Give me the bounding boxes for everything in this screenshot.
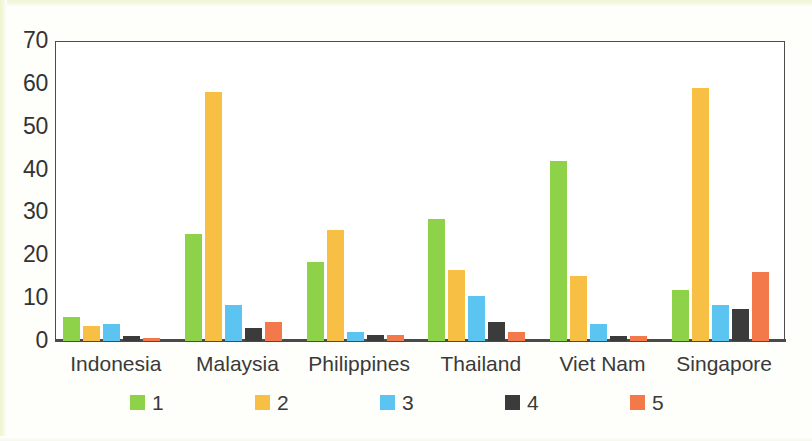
- legend-label: 5: [652, 392, 664, 413]
- x-axis-label-malaysia: Malaysia: [177, 352, 299, 375]
- legend-label: 2: [277, 392, 289, 413]
- x-axis-category-labels: IndonesiaMalaysiaPhilippinesThailandViet…: [55, 352, 785, 382]
- bar-indonesia-series-3: [103, 324, 120, 341]
- bar-philippines-series-2: [327, 230, 344, 341]
- y-axis-tick-label: 40: [0, 158, 48, 181]
- y-axis: 010203040506070: [0, 0, 48, 441]
- bar-malaysia-series-1: [185, 234, 202, 341]
- legend-swatch-icon: [505, 395, 520, 410]
- bar-singapore-series-3: [712, 305, 729, 341]
- bar-indonesia-series-1: [63, 317, 80, 341]
- bar-group: [663, 41, 785, 341]
- legend-item-2[interactable]: 2: [255, 392, 289, 413]
- y-axis-tick-label: 50: [0, 115, 48, 138]
- y-axis-tick-label: 10: [0, 286, 48, 309]
- y-axis-tick-label: 30: [0, 200, 48, 223]
- bar-malaysia-series-4: [245, 328, 262, 341]
- bar-viet-nam-series-5: [630, 336, 647, 341]
- bar-philippines-series-3: [347, 332, 364, 341]
- bar-thailand-series-4: [488, 322, 505, 341]
- x-axis-label-singapore: Singapore: [663, 352, 785, 375]
- legend-swatch-icon: [630, 395, 645, 410]
- legend-label: 4: [527, 392, 539, 413]
- legend-label: 1: [152, 392, 164, 413]
- legend-label: 3: [402, 392, 414, 413]
- bar-malaysia-series-3: [225, 305, 242, 341]
- bar-philippines-series-4: [367, 335, 384, 341]
- legend-item-5[interactable]: 5: [630, 392, 664, 413]
- legend-swatch-icon: [380, 395, 395, 410]
- bar-group: [177, 41, 299, 341]
- x-axis-label-philippines: Philippines: [298, 352, 420, 375]
- bar-malaysia-series-5: [265, 322, 282, 341]
- bar-viet-nam-series-4: [610, 336, 627, 341]
- x-axis-label-viet-nam: Viet Nam: [542, 352, 664, 375]
- bar-thailand-series-3: [468, 296, 485, 341]
- y-axis-tick-label: 70: [0, 29, 48, 52]
- bar-malaysia-series-2: [205, 92, 222, 341]
- x-axis-label-thailand: Thailand: [420, 352, 542, 375]
- y-axis-tick-label: 0: [0, 329, 48, 352]
- bar-philippines-series-5: [387, 335, 404, 341]
- bar-group: [298, 41, 420, 341]
- bar-singapore-series-4: [732, 309, 749, 341]
- bar-singapore-series-5: [752, 272, 769, 341]
- legend-item-4[interactable]: 4: [505, 392, 539, 413]
- legend-swatch-icon: [255, 395, 270, 410]
- bar-indonesia-series-4: [123, 336, 140, 341]
- bar-singapore-series-2: [692, 88, 709, 341]
- chart-legend: 12345: [55, 392, 785, 418]
- page-edge-bottom: [0, 436, 812, 441]
- bar-viet-nam-series-2: [570, 276, 587, 341]
- y-axis-tick-label: 60: [0, 72, 48, 95]
- bar-group: [542, 41, 664, 341]
- bars-layer: [55, 41, 785, 341]
- bar-group: [420, 41, 542, 341]
- bar-thailand-series-1: [428, 219, 445, 341]
- page-edge-top: [0, 0, 812, 7]
- bar-thailand-series-5: [508, 332, 525, 341]
- legend-swatch-icon: [130, 395, 145, 410]
- legend-item-1[interactable]: 1: [130, 392, 164, 413]
- bar-philippines-series-1: [307, 262, 324, 341]
- legend-item-3[interactable]: 3: [380, 392, 414, 413]
- x-axis-label-indonesia: Indonesia: [55, 352, 177, 375]
- bar-viet-nam-series-3: [590, 324, 607, 341]
- bar-indonesia-series-5: [143, 338, 160, 341]
- bar-singapore-series-1: [672, 290, 689, 341]
- bar-chart-figure: 010203040506070 IndonesiaMalaysiaPhilipp…: [0, 0, 812, 441]
- bar-thailand-series-2: [448, 270, 465, 341]
- bar-group: [55, 41, 177, 341]
- bar-indonesia-series-2: [83, 326, 100, 341]
- bar-viet-nam-series-1: [550, 161, 567, 341]
- y-axis-tick-label: 20: [0, 243, 48, 266]
